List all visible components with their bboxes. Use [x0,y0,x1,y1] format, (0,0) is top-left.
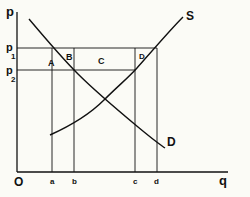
supply-demand-diagram: p q O p 1 p 2 a b c d S D A B C D [0,0,250,197]
region-b: B [66,52,73,62]
region-a: A [48,58,55,68]
q-label-c: c [133,177,138,186]
demand-curve [29,19,165,148]
q-label-d: d [154,177,159,186]
q-label-a: a [50,177,55,186]
q-label-b: b [72,177,77,186]
region-c: C [98,56,105,66]
supply-curve [50,17,183,135]
p1-subscript: 1 [11,52,16,61]
supply-label: S [186,9,194,23]
region-d: D [139,52,145,61]
demand-label: D [167,135,176,149]
origin-label: O [14,175,23,189]
y-axis-label: p [6,4,14,19]
p2-subscript: 2 [11,75,16,84]
x-axis-label: q [219,173,227,188]
